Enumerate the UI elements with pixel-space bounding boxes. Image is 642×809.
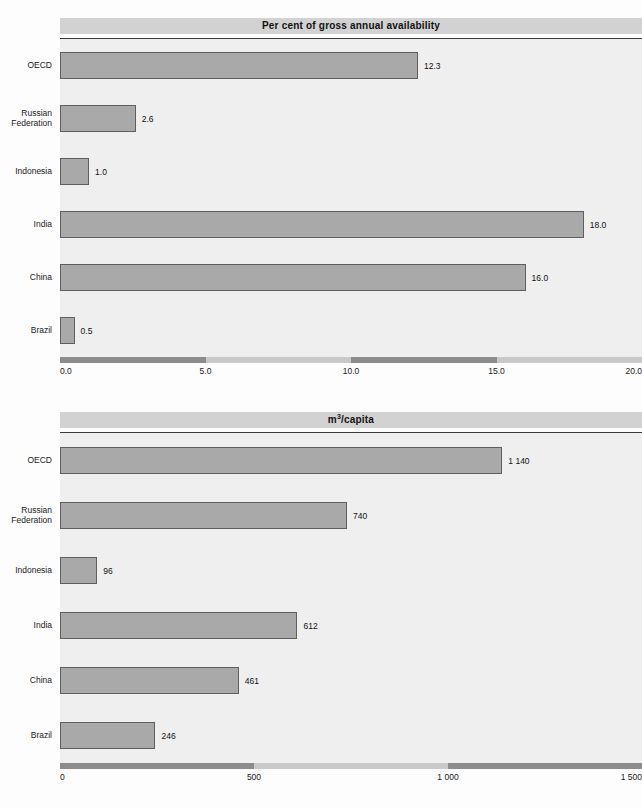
axis-segment bbox=[60, 357, 206, 363]
bar-row: India 18.0 bbox=[60, 198, 642, 251]
x-axis-strip-top bbox=[60, 357, 642, 363]
chart-title-rest: /capita bbox=[341, 414, 374, 425]
category-label: Indonesia bbox=[0, 167, 52, 177]
bar-brazil[interactable]: 0.5 bbox=[60, 317, 75, 344]
bar-row: Russian Federation 740 bbox=[60, 488, 642, 543]
category-label: China bbox=[0, 273, 52, 283]
category-label: China bbox=[0, 676, 52, 686]
bar-value-label: 18.0 bbox=[590, 220, 607, 230]
chart-title-band-top: Per cent of gross annual availability bbox=[60, 18, 642, 34]
chart-title-unit: m bbox=[328, 414, 337, 425]
bar-value-label: 96 bbox=[103, 566, 112, 576]
bar-india[interactable]: 612 bbox=[60, 612, 297, 639]
axis-segment bbox=[351, 357, 497, 363]
category-label: OECD bbox=[0, 61, 52, 71]
bar-india[interactable]: 18.0 bbox=[60, 211, 584, 238]
bar-row: Russian Federation 2.6 bbox=[60, 92, 642, 145]
chart-title-top: Per cent of gross annual availability bbox=[262, 21, 440, 31]
bar-row: Indonesia 1.0 bbox=[60, 145, 642, 198]
bar-row: OECD 12.3 bbox=[60, 39, 642, 92]
plot-area-top: OECD 12.3 Russian Federation 2.6 Indones… bbox=[60, 39, 642, 357]
axis-segment bbox=[60, 763, 254, 769]
category-label: India bbox=[0, 220, 52, 230]
bar-value-label: 16.0 bbox=[532, 273, 549, 283]
x-axis-ticks-bottom: 0 500 1 000 1 500 bbox=[60, 772, 642, 788]
x-tick-label: 5.0 bbox=[200, 366, 212, 376]
category-label: Indonesia bbox=[0, 566, 52, 576]
bar-value-label: 246 bbox=[161, 731, 175, 741]
bar-value-label: 1 140 bbox=[508, 456, 529, 466]
bar-value-label: 461 bbox=[245, 676, 259, 686]
category-label: India bbox=[0, 621, 52, 631]
chart-title-bottom: m3/capita bbox=[328, 415, 374, 425]
bar-value-label: 12.3 bbox=[424, 61, 441, 71]
plot-area-bottom: OECD 1 140 Russian Federation 740 Indone… bbox=[60, 433, 642, 763]
bar-value-label: 612 bbox=[303, 621, 317, 631]
bar-value-label: 0.5 bbox=[81, 326, 93, 336]
bar-oecd[interactable]: 1 140 bbox=[60, 447, 502, 474]
axis-segment bbox=[206, 357, 352, 363]
bar-row: OECD 1 140 bbox=[60, 433, 642, 488]
bar-rows-top: OECD 12.3 Russian Federation 2.6 Indones… bbox=[60, 39, 642, 357]
category-label: Russian Federation bbox=[0, 109, 52, 129]
x-tick-label: 1 500 bbox=[621, 772, 642, 782]
bar-china[interactable]: 461 bbox=[60, 667, 239, 694]
bar-row: Brazil 0.5 bbox=[60, 304, 642, 357]
axis-segment bbox=[448, 763, 642, 769]
category-label: Russian Federation bbox=[0, 506, 52, 526]
bar-indonesia[interactable]: 1.0 bbox=[60, 158, 89, 185]
chart-panel-cubic-metres-per-capita: m3/capita OECD 1 140 Russian Federation … bbox=[60, 412, 642, 797]
x-tick-label: 20.0 bbox=[625, 366, 642, 376]
bar-indonesia[interactable]: 96 bbox=[60, 557, 97, 584]
bar-rows-bottom: OECD 1 140 Russian Federation 740 Indone… bbox=[60, 433, 642, 763]
bar-row: China 461 bbox=[60, 653, 642, 708]
bar-row: India 612 bbox=[60, 598, 642, 653]
bar-value-label: 2.6 bbox=[142, 114, 154, 124]
bar-value-label: 740 bbox=[353, 511, 367, 521]
category-label: Brazil bbox=[0, 731, 52, 741]
bar-value-label: 1.0 bbox=[95, 167, 107, 177]
bar-brazil[interactable]: 246 bbox=[60, 722, 155, 749]
bar-row: China 16.0 bbox=[60, 251, 642, 304]
x-tick-label: 1 000 bbox=[437, 772, 458, 782]
bar-row: Brazil 246 bbox=[60, 708, 642, 763]
bar-russian-federation[interactable]: 740 bbox=[60, 502, 347, 529]
figure-page: Per cent of gross annual availability OE… bbox=[0, 0, 642, 809]
category-label: Brazil bbox=[0, 326, 52, 336]
category-label: OECD bbox=[0, 456, 52, 466]
bar-oecd[interactable]: 12.3 bbox=[60, 52, 418, 79]
axis-segment bbox=[254, 763, 448, 769]
x-tick-label: 0 bbox=[60, 772, 65, 782]
x-tick-label: 15.0 bbox=[488, 366, 505, 376]
axis-segment bbox=[497, 357, 642, 363]
chart-title-band-bottom: m3/capita bbox=[60, 412, 642, 428]
bar-china[interactable]: 16.0 bbox=[60, 264, 526, 291]
x-tick-label: 10.0 bbox=[343, 366, 360, 376]
chart-panel-percent-availability: Per cent of gross annual availability OE… bbox=[60, 18, 642, 390]
x-tick-label: 500 bbox=[247, 772, 261, 782]
x-axis-ticks-top: 0.0 5.0 10.0 15.0 20.0 bbox=[60, 366, 642, 382]
bar-russian-federation[interactable]: 2.6 bbox=[60, 105, 136, 132]
x-tick-label: 0.0 bbox=[60, 366, 72, 376]
bar-row: Indonesia 96 bbox=[60, 543, 642, 598]
x-axis-strip-bottom bbox=[60, 763, 642, 769]
